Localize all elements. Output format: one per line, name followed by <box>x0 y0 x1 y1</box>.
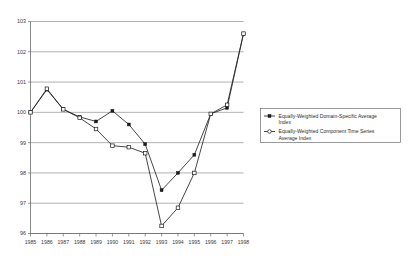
x-tick-label: 1988 <box>74 239 86 245</box>
x-tick-label: 1996 <box>205 239 217 245</box>
data-point <box>176 206 180 210</box>
chart-container: 96979899100101102103 1985198619871988198… <box>0 0 417 270</box>
series-line-2 <box>31 34 244 226</box>
series-markers-group <box>29 32 246 228</box>
line-chart: 96979899100101102103 1985198619871988198… <box>0 0 417 270</box>
data-point <box>144 143 147 146</box>
x-tick-label: 1997 <box>221 239 233 245</box>
data-point <box>177 171 180 174</box>
y-tick-label: 98 <box>20 170 26 176</box>
data-point <box>94 127 98 131</box>
x-tick-label: 1990 <box>107 239 119 245</box>
x-tick-label: 1993 <box>156 239 168 245</box>
data-point <box>111 109 114 112</box>
legend: Equally-Weighted Domain-Specific Average… <box>261 109 401 143</box>
data-point <box>95 120 98 123</box>
data-point <box>242 32 246 36</box>
data-point <box>45 87 49 91</box>
gridlines-group <box>31 22 244 234</box>
data-point <box>209 112 213 116</box>
x-tick-label: 1987 <box>57 239 69 245</box>
data-point <box>127 123 130 126</box>
y-tick-label: 102 <box>17 49 26 55</box>
legend-label: Equally-Weighted Component Time Series <box>279 128 375 134</box>
legend-marker-open-square <box>268 130 272 134</box>
y-axis-group: 96979899100101102103 <box>17 18 31 236</box>
data-point <box>193 153 196 156</box>
x-tick-label: 1989 <box>90 239 102 245</box>
x-tick-label: 1985 <box>25 239 37 245</box>
x-tick-label: 1986 <box>41 239 53 245</box>
data-point <box>193 171 197 175</box>
data-point <box>160 224 164 228</box>
data-point <box>111 144 115 148</box>
data-point <box>62 108 65 112</box>
data-point <box>29 111 33 115</box>
y-tick-label: 103 <box>17 18 26 24</box>
data-point <box>78 116 82 120</box>
legend-label: Equally-Weighted Domain-Specific Average <box>279 113 378 119</box>
y-tick-label: 97 <box>20 200 26 206</box>
data-point <box>127 145 131 149</box>
x-tick-label: 1998 <box>238 239 250 245</box>
y-tick-label: 96 <box>20 230 26 236</box>
legend-label-continued: Index <box>279 119 292 125</box>
legend-marker-filled-square <box>268 115 271 118</box>
x-axis-group: 1985198619871988198919901991199219931994… <box>25 234 250 245</box>
y-tick-label: 99 <box>20 140 26 146</box>
x-tick-label: 1991 <box>123 239 135 245</box>
series-lines-group <box>31 34 244 226</box>
x-tick-label: 1994 <box>172 239 184 245</box>
x-tick-label: 1992 <box>139 239 151 245</box>
data-point <box>225 103 229 107</box>
y-tick-label: 101 <box>17 79 26 85</box>
data-point <box>143 151 147 155</box>
x-tick-label: 1995 <box>189 239 201 245</box>
y-tick-label: 100 <box>17 109 26 115</box>
legend-label-continued: Average Index <box>279 135 312 141</box>
data-point <box>160 189 163 192</box>
